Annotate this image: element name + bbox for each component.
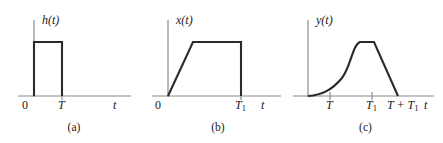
x-tick-label-b-T1-sub: 1 xyxy=(242,103,246,113)
signal-trace-y xyxy=(308,42,398,96)
y-axis-label-b: x(t) xyxy=(176,14,193,26)
origin-label-b: 0 xyxy=(155,99,161,111)
plot-panel-a: h(t) 0 T t (a) xyxy=(0,0,148,143)
x-tick-label-c-T: T xyxy=(326,99,333,111)
x-axis-label-a: t xyxy=(113,99,116,111)
panel-caption-a: (a) xyxy=(0,122,148,134)
x-tick-label-c-T1-sub: 1 xyxy=(373,103,377,113)
x-axis-label-c: t xyxy=(424,99,427,111)
x-tick-label-c-T-plus-T1: T + T1 xyxy=(387,99,418,113)
x-tick-label-c-T1-base: T xyxy=(366,98,373,112)
panel-caption-c: (c) xyxy=(288,122,443,134)
panel-caption-b: (b) xyxy=(143,122,293,134)
plot-panel-b: x(t) 0 T1 t (b) xyxy=(143,0,293,143)
y-axis-label-a: h(t) xyxy=(42,14,59,26)
origin-label-a: 0 xyxy=(22,99,28,111)
plot-panel-c: y(t) T T1 T + T1 t (c) xyxy=(288,0,443,143)
y-axis-label-c: y(t) xyxy=(316,14,333,26)
x-tick-label-c-T1: T1 xyxy=(366,99,377,113)
signal-trace-x xyxy=(168,42,241,96)
x-tick-label-b-T1-base: T xyxy=(235,98,242,112)
x-axis-label-b: t xyxy=(261,99,264,111)
x-tick-label-a-T: T xyxy=(58,99,65,111)
x-tick-label-c-T-plus-T1-sub: 1 xyxy=(414,103,418,113)
signal-trace-h xyxy=(34,42,62,96)
signal-convolution-figure: h(t) 0 T t (a) x(t) 0 T1 t (b) xyxy=(0,0,443,143)
x-tick-label-b-T1: T1 xyxy=(235,99,246,113)
x-tick-label-c-T-plus-T1-base: T + T xyxy=(387,98,414,112)
